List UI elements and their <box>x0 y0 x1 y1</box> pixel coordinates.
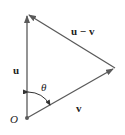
angle-arc <box>28 92 50 105</box>
label-u: u <box>13 65 19 76</box>
label-u-minus-v: u − v <box>71 26 94 37</box>
label-v: v <box>76 103 82 114</box>
vector-u-minus-v <box>29 15 115 68</box>
origin-point <box>25 116 29 120</box>
vector-v <box>27 69 113 118</box>
label-theta: θ <box>41 82 46 93</box>
label-origin: O <box>10 114 18 125</box>
vector-diagram: u u − v v θ O <box>0 0 125 135</box>
